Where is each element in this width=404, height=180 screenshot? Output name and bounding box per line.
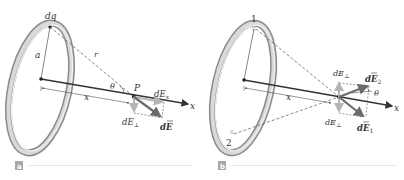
- field-vector-2-arrow: [339, 86, 367, 97]
- ring-center-dot: [39, 77, 43, 81]
- dashed-line-2: [234, 97, 339, 134]
- label-dE-perp-bottom: dE⊥: [325, 118, 342, 128]
- label-theta-b: θ: [374, 89, 379, 98]
- charged-ring-a: [0, 17, 83, 158]
- label-axis-x-b: x: [394, 103, 399, 113]
- ring-field-figure: dq a r θ P x x dEx dE⊥ dE a: [0, 0, 404, 180]
- radius-line-b: [244, 29, 254, 80]
- panel-tag-a: a: [17, 163, 22, 171]
- label-point-1: 1: [251, 14, 257, 24]
- label-dq: dq: [45, 11, 57, 21]
- label-r: r: [94, 50, 99, 59]
- charged-ring-b: [202, 18, 285, 159]
- distance-r-line: [50, 27, 134, 97]
- label-axis-x-a: x: [190, 101, 195, 111]
- charge-element-2: [230, 130, 234, 134]
- label-point-p: P: [133, 83, 141, 93]
- label-dE1: dE1: [357, 123, 373, 134]
- component-dash-v: [162, 102, 164, 118]
- label-distance-x-b: x: [286, 92, 291, 102]
- label-point-2: 2: [226, 138, 232, 148]
- panel-b: 1 2 x x θ dE⊥ dE⊥ dE2 dE1 b: [202, 14, 399, 171]
- panel-a: dq a r θ P x x dEx dE⊥ dE a: [0, 11, 195, 171]
- label-dEx: dEx: [154, 89, 170, 100]
- label-distance-x-a: x: [84, 92, 89, 102]
- ring-center-dot-b: [242, 78, 246, 82]
- label-dE-vector-a: dE: [160, 122, 173, 132]
- panel-tag-b: b: [220, 163, 225, 171]
- radius-line: [41, 27, 50, 79]
- label-radius-a: a: [35, 50, 40, 60]
- label-dE2: dE2: [365, 74, 381, 85]
- label-dE-perp-a: dE⊥: [122, 117, 139, 128]
- label-dE-perp-top: dE⊥: [333, 69, 350, 79]
- label-theta-a: θ: [110, 82, 115, 91]
